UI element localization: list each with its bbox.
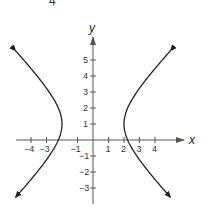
x-tick-label: 1	[106, 145, 111, 154]
hyperbola-plot	[0, 0, 207, 216]
x-axis-label: x	[189, 133, 195, 147]
hyperbola-figure: r 4 y x −4−3−11234 54321−1−2−3	[0, 0, 207, 216]
y-tick-label: 2	[83, 104, 88, 113]
x-tick-label: −4	[24, 145, 34, 154]
x-tick-label: 4	[152, 145, 157, 154]
y-tick-label: −1	[79, 152, 89, 161]
x-tick-label: 2	[121, 145, 126, 154]
y-tick-label: 3	[83, 88, 88, 97]
y-tick-label: 4	[83, 72, 88, 81]
left-branch-curve	[16, 51, 62, 198]
y-tick-label: −3	[79, 184, 89, 193]
y-tick-label: −2	[79, 168, 89, 177]
x-tick-label: −3	[40, 145, 50, 154]
y-axis-label: y	[89, 21, 95, 35]
y-tick-label: 1	[83, 120, 88, 129]
x-tick-label: 3	[137, 145, 142, 154]
y-tick-label: 5	[83, 56, 88, 65]
right-branch-curve	[124, 51, 170, 198]
